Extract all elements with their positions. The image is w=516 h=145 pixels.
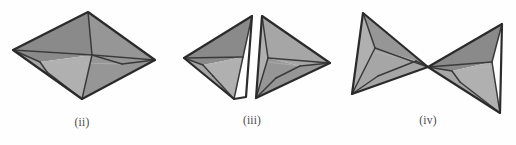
- figure-iv: (iv): [0, 0, 516, 120]
- figure-iv-caption: (iv): [398, 114, 458, 126]
- figure-plate: (ii): [0, 0, 516, 145]
- piece-left-tetrahedron: [352, 13, 428, 94]
- piece-right-tetrahedron: [428, 24, 502, 113]
- figure-iv-drawing: [0, 0, 516, 120]
